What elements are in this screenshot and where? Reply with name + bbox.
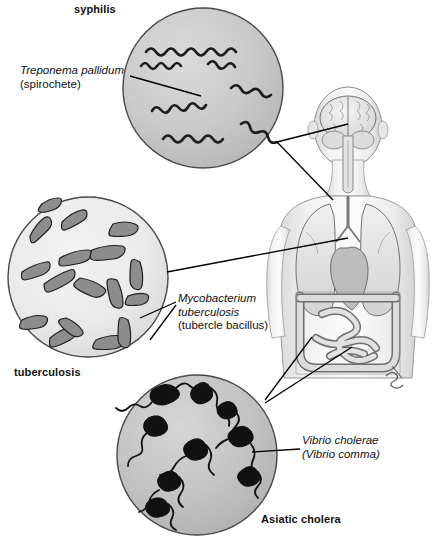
mycobacterium-species: tuberculosis <box>178 306 268 320</box>
vibrio-synonym: (Vibrio comma) <box>302 448 380 462</box>
disease-label-tuberculosis: tuberculosis <box>14 366 81 379</box>
organism-label-vibrio: Vibrio cholerae (Vibrio comma) <box>302 434 380 461</box>
illustration-canvas: syphilis tuberculosis Asiatic cholera Tr… <box>0 0 446 543</box>
organism-label-treponema: Treponema pallidum (spirochete) <box>20 64 124 91</box>
syphilis-circle <box>123 8 283 168</box>
disease-label-asiatic-cholera: Asiatic cholera <box>261 513 341 526</box>
organism-label-mycobacterium: Mycobacterium tuberculosis (tubercle bac… <box>178 292 268 333</box>
treponema-common-name: (spirochete) <box>20 78 124 92</box>
brain-organ <box>320 96 376 193</box>
cholera-circle <box>116 375 277 535</box>
mycobacterium-genus: Mycobacterium <box>178 292 268 306</box>
tuberculosis-circle <box>8 197 168 357</box>
vibrio-genus-species: Vibrio cholerae <box>302 434 380 448</box>
mycobacterium-common-name: (tubercle bacillus) <box>178 319 268 333</box>
disease-label-syphilis: syphilis <box>74 3 116 16</box>
treponema-genus-species: Treponema pallidum <box>20 64 124 78</box>
human-torso <box>267 87 430 388</box>
